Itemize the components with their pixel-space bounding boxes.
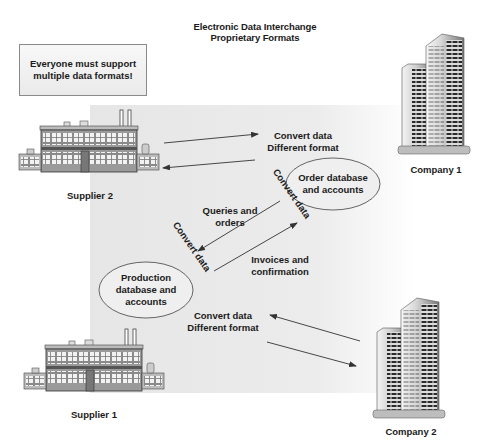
production-db-line-1: Production [101,272,191,284]
arrow-supplier2-to-company1 [164,134,258,143]
queries-line-2: orders [195,217,265,229]
order-database-label: Order database and accounts [288,172,378,196]
order-db-line-2: and accounts [288,184,378,196]
bottom-flow-line-1: Convert data [178,310,268,322]
office-building-icon [373,298,445,418]
factory-icon [19,110,159,172]
invoices-line-2: confirmation [240,266,320,278]
queries-line-1: Queries and [195,205,265,217]
arrow-supplier1-to-company2 [267,342,356,366]
bottom-flow-label: Convert data Different format [178,310,268,334]
invoices-line-1: Invoices and [240,254,320,266]
supplier2-label: Supplier 2 [60,190,120,202]
company2-label: Company 2 [381,426,441,438]
arrow-company1-to-supplier2 [163,160,255,168]
arrow-company2-to-supplier1 [270,315,360,341]
production-db-line-3: accounts [101,296,191,308]
factory-icon [24,329,164,391]
supplier1-label: Supplier 1 [64,409,124,421]
order-db-line-1: Order database [288,172,378,184]
top-flow-label: Convert data Different format [258,130,348,154]
top-flow-line-2: Different format [258,142,348,154]
queries-orders-label: Queries and orders [195,205,265,229]
top-flow-line-1: Convert data [258,130,348,142]
invoices-confirmation-label: Invoices and confirmation [240,254,320,278]
production-database-label: Production database and accounts [101,272,191,308]
production-db-line-2: database and [101,284,191,296]
company1-label: Company 1 [406,164,466,176]
office-building-icon [398,34,470,154]
bottom-flow-line-2: Different format [178,322,268,334]
